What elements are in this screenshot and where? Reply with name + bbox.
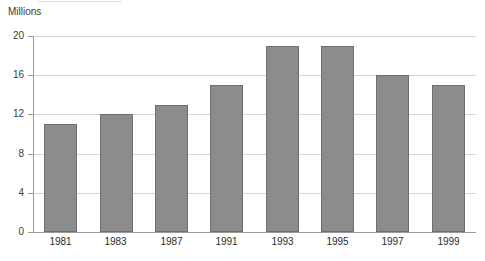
bar [376,75,409,232]
y-tick-label: 0 [0,227,24,237]
y-tick-label-text: 12 [2,109,24,119]
x-tick-label: 1983 [88,236,143,248]
x-tick-label: 1997 [365,236,420,248]
y-tick-label: 16 [0,70,24,80]
x-tick-label: 1999 [421,236,476,248]
y-tick-label-text: 0 [2,227,24,237]
x-axis-tick-labels: 19811983198719911993199519971999 [33,236,476,252]
bar [266,46,299,232]
y-tick-label-text: 16 [2,70,24,80]
bar-series [33,36,476,232]
bar-chart: Millions 048121620 198119831987199119931… [0,0,485,261]
top-rule-decoration [38,1,122,2]
y-tick-label-text: 8 [2,149,24,159]
axis-baseline [33,232,476,233]
bar [321,46,354,232]
x-tick-label: 1995 [310,236,365,248]
x-tick-label: 1987 [144,236,199,248]
y-tick-label: 4 [0,188,24,198]
bar [44,124,77,232]
bar [100,114,133,232]
y-axis-unit-label: Millions [8,6,41,18]
y-tick-mark [28,232,33,233]
y-tick-label: 12 [0,109,24,119]
y-tick-label-text: 20 [2,31,24,41]
bar [155,105,188,232]
bar [432,85,465,232]
y-tick-label-text: 4 [2,188,24,198]
bar [210,85,243,232]
y-tick-label: 20 [0,31,24,41]
x-tick-label: 1981 [33,236,88,248]
y-tick-label: 8 [0,149,24,159]
x-tick-label: 1991 [199,236,254,248]
x-tick-label: 1993 [255,236,310,248]
